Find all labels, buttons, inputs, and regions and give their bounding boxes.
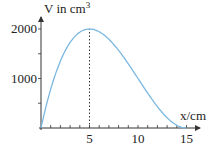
- volume-curve: [41, 29, 187, 128]
- x-axis-label: x/cm: [180, 108, 206, 123]
- x-tick-label: 10: [132, 131, 145, 146]
- y-axis-label: V in cm3: [44, 0, 91, 16]
- y-tick-label: 1000: [11, 71, 37, 86]
- x-tick-label: 5: [86, 131, 93, 146]
- y-ticks: 10002000: [11, 21, 41, 103]
- chart: 51015 10002000 V in cm3 x/cm: [0, 0, 221, 156]
- y-tick-label: 2000: [11, 21, 37, 36]
- x-tick-label: 15: [180, 131, 193, 146]
